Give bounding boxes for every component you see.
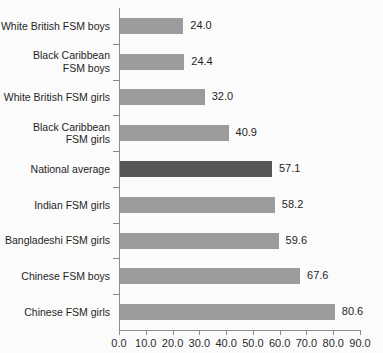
x-axis-tick (119, 330, 120, 335)
category-label: Black Caribbean FSM girls (0, 121, 110, 146)
x-axis-tick-label: 40.0 (215, 337, 236, 349)
bar (119, 54, 184, 70)
x-axis-tick (280, 330, 281, 335)
category-label: White British FSM girls (0, 91, 110, 104)
bar (119, 197, 275, 213)
bar (119, 304, 335, 320)
bar-value-label: 80.6 (342, 305, 363, 317)
bar (119, 89, 205, 105)
x-axis-tick (226, 330, 227, 335)
plot-area: 24.024.432.040.957.158.259.667.680.6 (119, 8, 360, 330)
x-axis-tick (173, 330, 174, 335)
bar (119, 125, 229, 141)
x-axis-tick (360, 330, 361, 335)
x-axis-tick-label: 30.0 (189, 337, 210, 349)
x-axis-line (119, 330, 361, 331)
x-axis-tick-label: 0.0 (111, 337, 126, 349)
bar-value-label: 24.0 (190, 19, 211, 31)
bar-value-label: 57.1 (279, 162, 300, 174)
x-axis-tick-label: 90.0 (349, 337, 370, 349)
category-label: Black Caribbean FSM boys (0, 49, 110, 74)
bar (119, 233, 279, 249)
x-axis-tick-label: 80.0 (323, 337, 344, 349)
category-label: White British FSM boys (0, 20, 110, 33)
x-axis-tick-label: 60.0 (269, 337, 290, 349)
bar (119, 161, 272, 177)
bar-value-label: 59.6 (286, 234, 307, 246)
category-label: Bangladeshi FSM girls (0, 234, 110, 247)
bar-value-label: 24.4 (191, 55, 212, 67)
bar-value-label: 40.9 (236, 126, 257, 138)
x-axis-tick-label: 50.0 (242, 337, 263, 349)
x-axis-tick (333, 330, 334, 335)
bar-value-label: 67.6 (307, 269, 328, 281)
bar-value-label: 58.2 (282, 198, 303, 210)
category-label: National average (0, 163, 110, 176)
bar (119, 268, 300, 284)
category-label: Chinese FSM boys (0, 270, 110, 283)
x-axis-tick-label: 10.0 (135, 337, 156, 349)
bar-chart: 24.024.432.040.957.158.259.667.680.6 Whi… (0, 0, 383, 353)
x-axis-tick-label: 20.0 (162, 337, 183, 349)
bar (119, 18, 183, 34)
x-axis-tick-label: 70.0 (296, 337, 317, 349)
x-axis-tick (306, 330, 307, 335)
x-axis-tick (253, 330, 254, 335)
x-axis-tick (146, 330, 147, 335)
x-axis-tick (199, 330, 200, 335)
category-label: Indian FSM girls (0, 199, 110, 212)
y-axis-line (119, 8, 120, 330)
bar-value-label: 32.0 (212, 90, 233, 102)
category-label: Chinese FSM girls (0, 306, 110, 319)
